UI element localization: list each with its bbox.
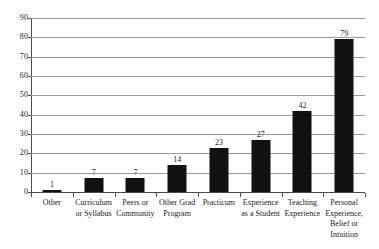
x-tick-mark xyxy=(240,193,241,197)
x-tick-mark xyxy=(365,193,366,197)
x-tick-label-line: Experience, xyxy=(314,209,374,220)
y-tick-label-90: 90 xyxy=(2,14,28,22)
x-tick-mark xyxy=(73,193,74,197)
y-tick-label-40: 40 xyxy=(2,111,28,119)
x-tick-label-line: Intuition xyxy=(314,230,374,241)
y-axis-tick-labels: 0102030405060708090 xyxy=(0,0,28,249)
x-tick-label-line: Belief or xyxy=(314,219,374,230)
y-tick-label-30: 30 xyxy=(2,130,28,138)
y-tick-label-50: 50 xyxy=(2,91,28,99)
bar-group: 7 xyxy=(73,18,115,192)
bar-group: 27 xyxy=(240,18,282,192)
bar-group: 23 xyxy=(198,18,240,192)
bar-value-label: 79 xyxy=(340,29,348,38)
bar xyxy=(126,178,145,192)
x-tick-mark xyxy=(323,193,324,197)
bar-group: 79 xyxy=(323,18,365,192)
bar-group: 42 xyxy=(282,18,324,192)
bar-value-label: 14 xyxy=(173,155,181,164)
y-tick-label-60: 60 xyxy=(2,72,28,80)
x-tick-mark xyxy=(31,193,32,197)
plot-area: 1771423274279 xyxy=(31,18,365,192)
x-tick-label-line: Personal xyxy=(314,198,374,209)
x-axis-tick-labels: OtherCurriculumor SyllabusPeers orCommun… xyxy=(31,198,365,248)
x-tick-mark xyxy=(115,193,116,197)
bar xyxy=(84,178,103,192)
y-tick-label-70: 70 xyxy=(2,53,28,61)
bar xyxy=(335,39,354,192)
bar-value-label: 7 xyxy=(133,168,137,177)
y-tick-label-20: 20 xyxy=(2,149,28,157)
y-tick-label-10: 10 xyxy=(2,169,28,177)
x-tick-label: PersonalExperience,Belief orIntuition xyxy=(314,198,374,240)
bar-value-label: 7 xyxy=(92,168,96,177)
bar-group: 7 xyxy=(115,18,157,192)
bar-chart: 0102030405060708090 1771423274279 OtherC… xyxy=(0,0,379,249)
bar xyxy=(168,165,187,192)
x-tick-mark xyxy=(282,193,283,197)
bar-group: 14 xyxy=(156,18,198,192)
bar-value-label: 27 xyxy=(257,130,265,139)
bar-group: 1 xyxy=(31,18,73,192)
y-tick-label-0: 0 xyxy=(2,188,28,196)
x-tick-label-line: Program xyxy=(147,209,207,220)
bar-value-label: 23 xyxy=(215,138,223,147)
bar-value-label: 42 xyxy=(298,101,306,110)
x-tick-mark xyxy=(198,193,199,197)
bar-value-label: 1 xyxy=(50,180,54,189)
x-tick-mark xyxy=(156,193,157,197)
bar xyxy=(293,111,312,192)
y-tick-label-80: 80 xyxy=(2,33,28,41)
bar xyxy=(209,148,228,192)
bar xyxy=(251,140,270,192)
